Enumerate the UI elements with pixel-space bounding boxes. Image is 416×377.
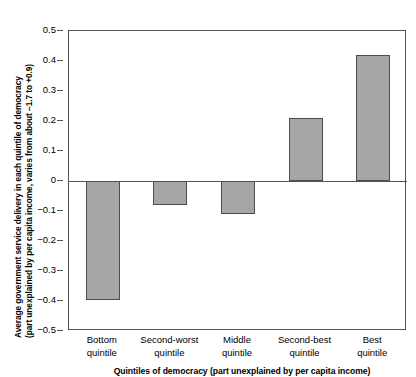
bar-1 bbox=[86, 181, 120, 300]
y-tick-mark bbox=[57, 180, 63, 181]
bar-3 bbox=[221, 181, 255, 214]
y-tick-mark bbox=[57, 150, 63, 151]
y-tick-mark bbox=[57, 240, 63, 241]
x-tick-label-line: quintile bbox=[317, 347, 416, 360]
y-tick-mark bbox=[57, 210, 63, 211]
y-axis-ticks: 0.50.40.30.20.10−0.1−0.2−0.3−0.4−0.5 bbox=[0, 0, 68, 377]
y-tick-mark bbox=[57, 330, 63, 331]
y-tick-label: −0.1 bbox=[37, 205, 56, 215]
x-tick-label-line: Best bbox=[317, 334, 416, 347]
y-tick-mark bbox=[57, 90, 63, 91]
y-tick-mark bbox=[57, 300, 63, 301]
y-tick-label: 0.1 bbox=[43, 145, 56, 155]
y-tick-label: 0.2 bbox=[43, 115, 56, 125]
y-tick-mark bbox=[57, 270, 63, 271]
x-axis-title: Quintiles of democracy (part unexplained… bbox=[68, 366, 416, 376]
y-tick-label: −0.2 bbox=[37, 235, 56, 245]
y-tick-label: 0 bbox=[51, 175, 56, 185]
plot-area bbox=[68, 30, 406, 330]
y-tick-mark bbox=[57, 120, 63, 121]
y-tick-label: 0.5 bbox=[43, 25, 56, 35]
y-tick-label: −0.3 bbox=[37, 265, 56, 275]
x-tick-label-5: Bestquintile bbox=[317, 334, 416, 359]
x-axis-tick-labels: BottomquintileSecond-worstquintileMiddle… bbox=[68, 334, 406, 362]
y-tick-label: 0.3 bbox=[43, 85, 56, 95]
bar-2 bbox=[153, 181, 187, 205]
y-tick-mark bbox=[57, 60, 63, 61]
y-tick-label: 0.4 bbox=[43, 55, 56, 65]
y-tick-mark bbox=[57, 30, 63, 31]
bar-4 bbox=[289, 118, 323, 181]
y-tick-label: −0.4 bbox=[37, 295, 56, 305]
bar-5 bbox=[356, 55, 390, 181]
